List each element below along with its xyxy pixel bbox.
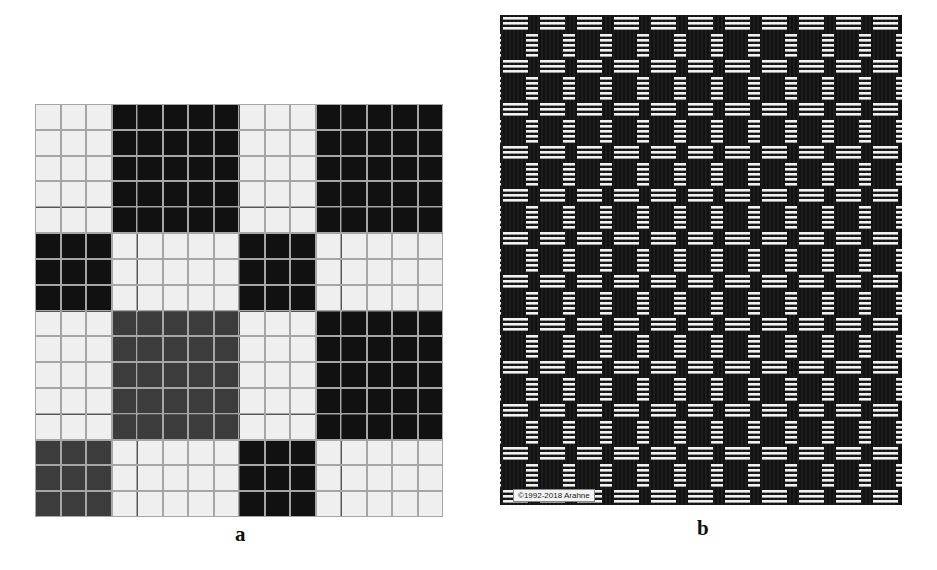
weft-float [762, 404, 787, 407]
weft-float [748, 221, 760, 224]
weft-float [637, 183, 649, 186]
weft-float [896, 226, 902, 229]
draft-cell [138, 286, 162, 310]
weft-float [859, 135, 871, 138]
weft-float [651, 280, 676, 283]
draft-cell [317, 182, 341, 206]
draft-cell [368, 105, 392, 129]
weft-float [637, 479, 649, 482]
weft-float [637, 441, 649, 444]
weft-float [577, 103, 602, 106]
weft-float [873, 156, 898, 159]
weft-float [711, 307, 723, 310]
weft-float [748, 345, 760, 348]
weft-float [637, 49, 649, 52]
weft-float [674, 135, 686, 138]
weft-float [637, 54, 649, 57]
weft-float [896, 345, 902, 348]
draft-cell [419, 466, 443, 490]
weft-float [614, 146, 639, 149]
weft-float [526, 77, 538, 80]
weft-float [577, 414, 602, 417]
weft-float [748, 426, 760, 429]
weft-float [563, 340, 575, 343]
weft-float [637, 221, 649, 224]
draft-cell [113, 105, 137, 129]
draft-cell [87, 260, 111, 284]
weft-float [762, 275, 787, 278]
weft-float [822, 254, 834, 257]
draft-cell [62, 131, 86, 155]
weft-float [637, 168, 649, 171]
weft-float [873, 328, 898, 331]
weft-float [563, 264, 575, 267]
draft-cell [113, 389, 137, 413]
weft-float [526, 135, 538, 138]
weft-float [563, 436, 575, 439]
weft-float [614, 414, 639, 417]
weft-float [500, 125, 501, 128]
weft-float [600, 312, 612, 315]
weft-float [896, 378, 902, 381]
weft-float [577, 447, 602, 450]
weft-float [799, 113, 824, 116]
draft-cell [240, 492, 264, 516]
draft-cell [36, 363, 60, 387]
weft-float [822, 259, 834, 262]
weft-float [563, 441, 575, 444]
weft-float [563, 312, 575, 315]
weft-float [614, 242, 639, 245]
draft-cell [36, 234, 60, 258]
weft-float [563, 125, 575, 128]
weft-float [762, 447, 787, 450]
weft-float [503, 194, 528, 197]
weft-float [859, 378, 871, 381]
weft-float [896, 173, 902, 176]
weft-float [614, 285, 639, 288]
weft-float [540, 280, 565, 283]
weft-float [563, 77, 575, 80]
weft-float [822, 398, 834, 401]
weft-float [600, 383, 612, 386]
weft-float [674, 97, 686, 100]
weft-float [725, 237, 750, 240]
weft-float [822, 211, 834, 214]
draft-cell [189, 182, 213, 206]
weft-float [896, 259, 902, 262]
draft-cell [36, 157, 60, 181]
weft-float [688, 500, 713, 503]
weft-float [674, 479, 686, 482]
weft-float [503, 285, 528, 288]
weft-float [836, 189, 861, 192]
draft-cell [419, 492, 443, 516]
draft-cell [138, 182, 162, 206]
weft-float [896, 140, 902, 143]
weft-float [785, 140, 797, 143]
weft-float [526, 264, 538, 267]
weft-float [637, 77, 649, 80]
weft-float [822, 393, 834, 396]
weft-float [799, 457, 824, 460]
weft-float [674, 120, 686, 123]
weft-float [896, 249, 902, 252]
weft-float [836, 17, 861, 20]
weft-float [896, 163, 902, 166]
weft-float [563, 292, 575, 295]
weft-float [873, 371, 898, 374]
weft-float [873, 275, 898, 278]
weft-float [748, 292, 760, 295]
weft-float [674, 350, 686, 353]
weft-float [651, 199, 676, 202]
weft-float [563, 87, 575, 90]
draft-cell [342, 286, 366, 310]
weft-float [540, 318, 565, 321]
weft-float [540, 237, 565, 240]
weft-float [725, 366, 750, 369]
weft-float [503, 156, 528, 159]
weft-float [688, 366, 713, 369]
weft-float [563, 254, 575, 257]
weft-float [674, 254, 686, 257]
weft-float [711, 259, 723, 262]
weft-float [799, 447, 824, 450]
weft-float [563, 173, 575, 176]
